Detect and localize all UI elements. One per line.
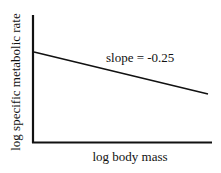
x-axis-label: log body mass [92, 149, 167, 165]
y-axis-label: log specific metabolic rate [8, 13, 24, 151]
slope-annotation: slope = -0.25 [106, 50, 174, 66]
plot-area [0, 0, 221, 173]
chart: log specific metabolic rate log body mas… [0, 0, 221, 173]
